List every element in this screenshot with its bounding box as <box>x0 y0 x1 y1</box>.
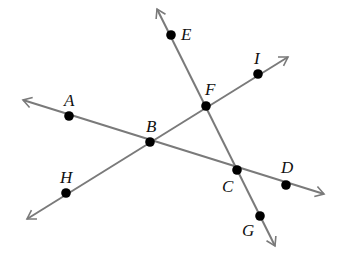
point-e <box>166 30 176 40</box>
point-label-h: H <box>59 168 74 187</box>
geometry-diagram: ABCDEFGHI <box>0 0 344 261</box>
point-f <box>201 101 211 111</box>
point-d <box>281 180 291 190</box>
point-g <box>255 211 265 221</box>
point-b <box>145 137 155 147</box>
diagram-canvas: ABCDEFGHI <box>0 0 344 261</box>
points-group: ABCDEFGHI <box>59 25 294 240</box>
point-a <box>64 111 74 121</box>
point-label-e: E <box>180 25 192 44</box>
point-i <box>253 69 263 79</box>
point-label-c: C <box>222 177 234 196</box>
point-label-b: B <box>146 117 157 136</box>
point-label-g: G <box>242 221 254 240</box>
point-label-f: F <box>204 80 216 99</box>
point-c <box>232 165 242 175</box>
point-label-i: I <box>253 49 261 68</box>
point-label-a: A <box>63 91 75 110</box>
point-label-d: D <box>280 158 294 177</box>
lines-group <box>23 9 324 246</box>
point-h <box>61 188 71 198</box>
